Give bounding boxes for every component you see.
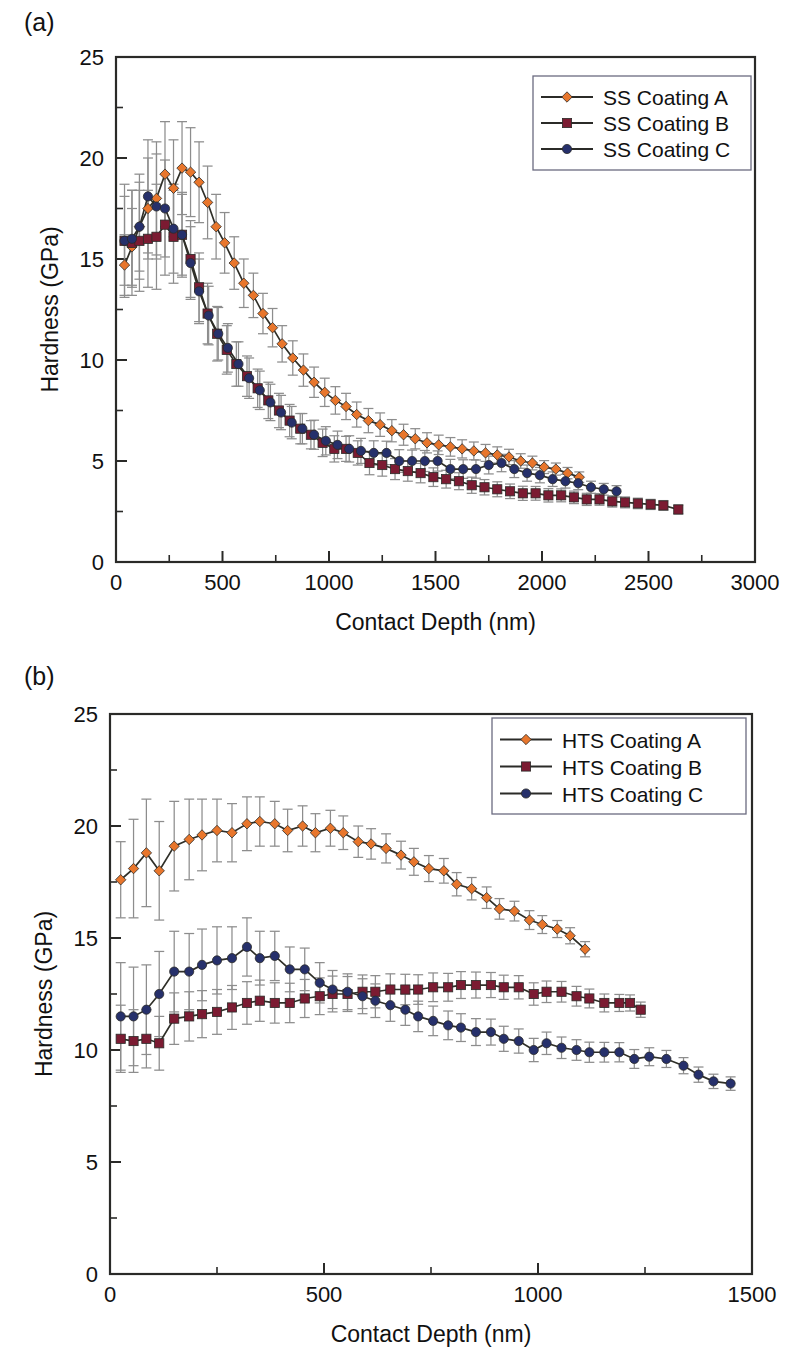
data-point-marker: [267, 322, 277, 332]
data-point-marker: [328, 985, 337, 994]
data-point-marker: [255, 386, 264, 395]
data-point-marker: [353, 836, 363, 846]
data-point-marker: [600, 998, 609, 1007]
data-point-marker: [459, 464, 468, 473]
y-tick-label: 20: [80, 146, 104, 171]
data-point-marker: [170, 1014, 179, 1023]
data-point-marker: [300, 994, 309, 1003]
data-point-marker: [242, 819, 252, 829]
data-point-marker: [309, 430, 318, 439]
data-point-marker: [184, 834, 194, 844]
data-point-marker: [444, 1021, 453, 1030]
data-point-marker: [160, 169, 170, 179]
data-point-marker: [574, 479, 583, 488]
data-point-marker: [227, 1003, 236, 1012]
data-point-marker: [630, 1054, 639, 1063]
data-point-marker: [343, 987, 352, 996]
data-point-marker: [386, 1001, 395, 1010]
data-point-marker: [315, 978, 324, 987]
data-point-marker: [300, 965, 309, 974]
data-point-marker: [229, 258, 239, 268]
data-point-marker: [270, 998, 279, 1007]
data-point-marker: [414, 1012, 423, 1021]
data-point-marker: [369, 448, 378, 457]
y-axis-title: Hardness (GPa): [31, 911, 57, 1077]
legend-label-3[interactable]: SS Coating C: [603, 138, 730, 161]
data-point-marker: [608, 497, 617, 506]
data-point-marker: [170, 967, 179, 976]
data-point-marker: [662, 1054, 671, 1063]
data-point-marker: [557, 1043, 566, 1052]
y-tick-label: 15: [80, 247, 104, 272]
data-point-marker: [375, 419, 385, 429]
data-point-marker: [615, 1048, 624, 1057]
y-tick-label: 5: [92, 449, 104, 474]
data-point-marker: [505, 487, 514, 496]
data-point-marker: [386, 985, 395, 994]
data-point-marker: [599, 485, 608, 494]
panel-a: (a) 0510152025050010001500200025003000Co…: [0, 0, 802, 678]
data-point-marker: [636, 1005, 645, 1014]
data-point-marker: [433, 440, 443, 450]
data-point-marker: [467, 481, 476, 490]
legend-label-1[interactable]: HTS Coating A: [562, 729, 701, 752]
data-point-marker: [387, 426, 397, 436]
data-point-marker: [242, 998, 251, 1007]
data-point-marker: [266, 398, 275, 407]
data-point-marker: [371, 996, 380, 1005]
data-point-marker: [227, 828, 237, 838]
data-point-marker: [709, 1077, 718, 1086]
data-point-marker: [529, 1045, 538, 1054]
data-point-marker: [407, 456, 416, 465]
data-point-marker: [484, 460, 493, 469]
data-point-marker: [169, 224, 178, 233]
data-point-marker: [212, 956, 221, 965]
data-point-marker: [499, 983, 508, 992]
data-point-marker: [155, 1039, 164, 1048]
data-point-marker: [119, 260, 129, 270]
series-3-errorbars: [116, 918, 736, 1090]
data-point-marker: [557, 987, 566, 996]
data-point-marker: [197, 1010, 206, 1019]
data-point-marker: [255, 816, 265, 826]
data-point-marker: [401, 985, 410, 994]
series-1-markers: [119, 163, 584, 482]
data-point-marker: [285, 965, 294, 974]
x-tick-label: 500: [306, 1282, 343, 1307]
data-point-marker: [416, 469, 425, 478]
data-point-marker: [454, 477, 463, 486]
data-point-marker: [561, 477, 570, 486]
data-point-marker: [674, 505, 683, 514]
legend-label-2[interactable]: HTS Coating B: [562, 756, 702, 779]
data-point-marker: [646, 500, 655, 509]
data-point-marker: [521, 762, 530, 771]
data-point-marker: [258, 308, 268, 318]
data-point-marker: [572, 992, 581, 1001]
legend-label-3[interactable]: HTS Coating C: [562, 783, 703, 806]
data-point-marker: [160, 204, 169, 213]
panel-b: (b) 0510152025050010001500Contact Depth …: [0, 656, 802, 1354]
y-tick-label: 10: [80, 348, 104, 373]
data-point-marker: [214, 329, 223, 338]
data-point-marker: [325, 823, 335, 833]
data-point-marker: [282, 825, 292, 835]
data-point-marker: [245, 374, 254, 383]
data-point-marker: [445, 442, 455, 452]
data-point-marker: [297, 821, 307, 831]
legend-label-1[interactable]: SS Coating A: [603, 86, 728, 109]
data-point-marker: [333, 440, 342, 449]
data-point-marker: [255, 996, 264, 1005]
data-point-marker: [422, 438, 432, 448]
legend-label-2[interactable]: SS Coating B: [603, 112, 729, 135]
x-tick-label: 2500: [624, 570, 673, 595]
data-point-marker: [569, 493, 578, 502]
data-point-marker: [197, 960, 206, 969]
data-point-marker: [310, 828, 320, 838]
data-point-marker: [633, 499, 642, 508]
data-point-marker: [409, 857, 419, 867]
series-1-errorbars: [116, 797, 590, 957]
data-point-marker: [152, 232, 161, 241]
data-point-marker: [694, 1070, 703, 1079]
data-point-marker: [726, 1079, 735, 1088]
x-tick-label: 0: [110, 570, 122, 595]
